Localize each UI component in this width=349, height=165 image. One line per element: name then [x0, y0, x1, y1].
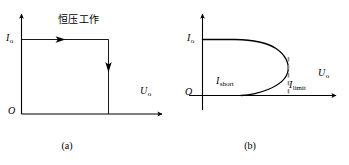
panel-b-ishort-label: Ishort	[216, 76, 234, 88]
panel-b: Io Uo O Ishort Ilimit (b)	[175, 0, 349, 165]
panel-b-x-axis-label: Uo	[318, 68, 329, 80]
panel-b-origin-label: O	[185, 87, 192, 97]
panel-b-ilimit-label: Ilimit	[289, 80, 306, 92]
panel-a-origin-label: O	[8, 106, 15, 116]
panel-b-y-axis-label: Io	[187, 33, 194, 45]
panel-a-y-axis-label: Io	[6, 33, 13, 45]
figure-root: Io Uo O 恒压工作 (a) Io Uo O Ishort	[0, 0, 349, 165]
panel-a: Io Uo O 恒压工作 (a)	[0, 0, 175, 165]
panel-a-annotation: 恒压工作	[58, 15, 99, 25]
panel-b-caption: (b)	[230, 141, 270, 151]
panel-a-caption: (a)	[47, 141, 87, 151]
panel-a-x-axis-label: Uo	[140, 86, 151, 98]
